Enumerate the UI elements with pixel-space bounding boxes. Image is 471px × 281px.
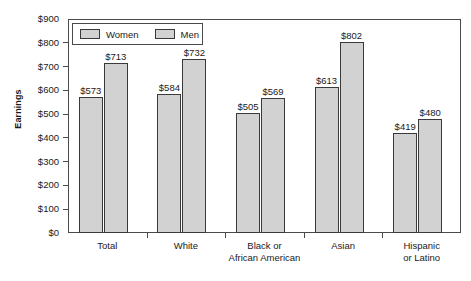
x-axis-separator-tick <box>225 233 226 238</box>
bar <box>236 113 260 233</box>
bar-value-label: $573 <box>73 85 109 96</box>
bar <box>340 42 364 233</box>
y-tick-label: $800 <box>38 37 59 49</box>
y-tick-label: $300 <box>38 156 59 168</box>
x-axis-category-line: or Latino <box>362 252 471 264</box>
y-tick-label: $500 <box>38 108 59 120</box>
y-tick: $300 <box>0 156 68 168</box>
bar-value-label: $713 <box>98 51 134 62</box>
bar <box>393 133 417 233</box>
y-tick-label: $0 <box>48 227 59 239</box>
legend-item-men: Men <box>155 29 199 40</box>
legend-label-women: Women <box>106 29 139 40</box>
bar-value-label: $480 <box>412 107 448 118</box>
y-tick-label: $100 <box>38 203 59 215</box>
x-axis-separator-tick <box>304 233 305 238</box>
x-axis-category-line: White <box>174 240 198 251</box>
y-tick: $400 <box>0 132 68 144</box>
y-tick: $800 <box>0 37 68 49</box>
x-axis-separator-tick <box>382 233 383 238</box>
y-tick: $900 <box>0 13 68 25</box>
bar <box>157 94 181 233</box>
y-tick: $700 <box>0 61 68 73</box>
y-tick-label: $900 <box>38 13 59 25</box>
x-axis-category-line: Asian <box>331 240 355 251</box>
bar-value-label: $584 <box>151 82 187 93</box>
bar-value-label: $569 <box>255 86 291 97</box>
y-tick-label: $400 <box>38 132 59 144</box>
x-axis-category-line: Black or <box>247 240 281 251</box>
bar <box>261 98 285 233</box>
bar-value-label: $505 <box>230 101 266 112</box>
bar-value-label: $732 <box>176 47 212 58</box>
bar-chart: Earnings $900$800$700$600$500$400$300$20… <box>0 0 471 281</box>
y-tick: $0 <box>0 227 68 239</box>
legend-swatch-men-icon <box>155 29 175 39</box>
x-axis-category-line: African American <box>205 252 324 264</box>
legend-item-women: Women <box>80 29 139 40</box>
x-axis-category-line: Total <box>97 240 117 251</box>
y-tick-label: $600 <box>38 84 59 96</box>
x-axis-category-line: Hispanic <box>403 240 439 251</box>
x-axis-category-label: Hispanicor Latino <box>362 240 471 264</box>
y-tick-label: $700 <box>38 61 59 73</box>
bar <box>418 119 442 233</box>
legend-swatch-women-icon <box>80 29 100 39</box>
chart-legend: Women Men <box>72 23 203 45</box>
bar-value-label: $802 <box>334 30 370 41</box>
bar <box>79 97 103 233</box>
bar-value-label: $613 <box>309 75 345 86</box>
bar-value-label: $419 <box>387 121 423 132</box>
bar <box>315 87 339 233</box>
y-tick: $100 <box>0 203 68 215</box>
y-tick: $500 <box>0 108 68 120</box>
legend-label-men: Men <box>181 29 199 40</box>
y-tick: $600 <box>0 84 68 96</box>
y-tick: $200 <box>0 179 68 191</box>
x-axis-separator-tick <box>147 233 148 238</box>
y-tick-label: $200 <box>38 179 59 191</box>
